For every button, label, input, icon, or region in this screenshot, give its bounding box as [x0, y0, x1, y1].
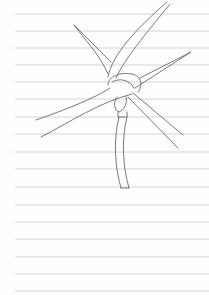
sketch-canvas	[0, 0, 209, 295]
blade-lower-right	[128, 93, 183, 148]
nacelle	[115, 97, 127, 117]
blade-upper-left	[74, 25, 111, 74]
hub	[108, 73, 141, 92]
blade-top	[108, 2, 170, 78]
windmill-drawing	[36, 2, 191, 188]
blade-right	[135, 52, 191, 88]
ruled-lines	[15, 14, 209, 291]
lined-paper	[0, 0, 209, 295]
